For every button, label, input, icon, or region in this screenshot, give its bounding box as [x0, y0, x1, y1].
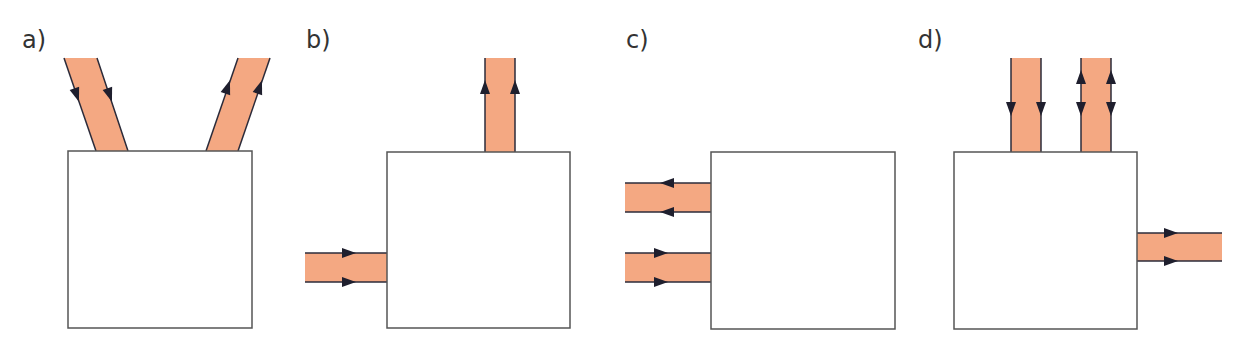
flow-diagrams [0, 0, 1242, 349]
pipe-top-bidirectional [1081, 58, 1111, 152]
control-volume-box [68, 151, 252, 328]
panel-c [625, 152, 895, 329]
control-volume-box [954, 152, 1137, 329]
control-volume-box [387, 152, 570, 328]
pipe-top-outlet [485, 58, 515, 152]
control-volume-box [711, 152, 895, 329]
panel-a [64, 58, 270, 328]
pipe-angled-outlet-right [206, 58, 270, 151]
pipe-left-inlet [305, 253, 387, 282]
pipe-top-inlet [1011, 58, 1041, 152]
pipe-angled-inlet-left [64, 58, 128, 151]
pipe-left-outlet-upper [625, 183, 711, 212]
panel-b [305, 58, 570, 328]
panel-d [954, 58, 1222, 329]
pipe-right-outlet [1137, 233, 1222, 261]
pipe-left-inlet-lower [625, 253, 711, 282]
